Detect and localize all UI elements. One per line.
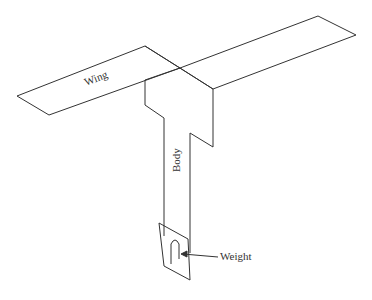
wing-crossing-line xyxy=(145,68,180,80)
body-label: Body xyxy=(170,148,182,172)
weight-paperclip xyxy=(171,240,179,264)
wing-fold-line xyxy=(145,46,213,89)
weight-arrow-line xyxy=(183,254,218,257)
right-wing-blade xyxy=(180,16,356,89)
wing-label: Wing xyxy=(82,68,109,88)
weight-label: Weight xyxy=(220,250,252,262)
helicopter-diagram: Wing Body Weight xyxy=(0,0,372,300)
diagram-canvas: Wing Body Weight xyxy=(0,0,372,300)
body-outline-left xyxy=(145,80,164,236)
body-outline-right xyxy=(190,89,213,253)
weight-arrowhead xyxy=(181,251,187,257)
